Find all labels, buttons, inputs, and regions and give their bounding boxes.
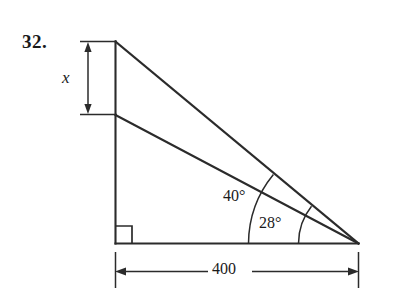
hypotenuse-lower bbox=[116, 115, 359, 244]
hypotenuse-upper bbox=[116, 42, 359, 244]
unknown-length-label: x bbox=[62, 69, 70, 86]
geometry-diagram bbox=[0, 0, 405, 307]
angle-arc-40 bbox=[249, 175, 274, 244]
dimension-x bbox=[80, 42, 117, 115]
base-arrowhead-left bbox=[115, 268, 126, 276]
dimension-base bbox=[115, 252, 359, 288]
base-arrowhead-right bbox=[348, 268, 359, 276]
figure-page: 32. x 40° 28° 400 bbox=[0, 0, 405, 307]
problem-number-label: 32. bbox=[22, 32, 47, 51]
x-arrowhead-down bbox=[84, 104, 91, 114]
angle-label-40: 40° bbox=[223, 188, 245, 204]
x-arrowhead-up bbox=[84, 42, 91, 52]
angle-label-28: 28° bbox=[259, 215, 281, 231]
right-angle-marker bbox=[116, 226, 133, 244]
base-length-label: 400 bbox=[212, 261, 236, 277]
